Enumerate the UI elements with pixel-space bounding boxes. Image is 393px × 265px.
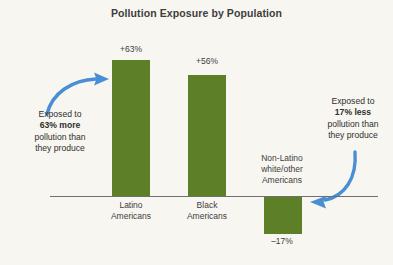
bar-black-americans (188, 75, 226, 196)
annotation-left: Exposed to 63% more pollution than they … (14, 109, 106, 155)
annotation-line: they produce (307, 130, 393, 141)
chart-container: Pollution Exposure by Population +63% +5… (0, 0, 393, 265)
bar-value-label-2: –17% (247, 236, 317, 246)
annotation-right: Exposed to 17% less pollution than they … (307, 96, 393, 142)
bar-value-label-1: +56% (172, 56, 242, 66)
annotation-line: they produce (14, 143, 106, 154)
annotation-line: pollution than (14, 132, 106, 143)
bar-non-latino-white-other-americans (264, 197, 302, 234)
bar-latino-americans (112, 60, 150, 196)
annotation-line-emphasis: 17% less (307, 107, 393, 118)
zero-baseline-axis (50, 196, 378, 197)
category-label-non-latino-white-other-americans: Non-Latino white/other Americans (237, 153, 327, 186)
category-label-line: Non-Latino (237, 153, 327, 164)
annotation-line: Exposed to (307, 96, 393, 107)
bar-value-label-0: +63% (96, 44, 166, 54)
chart-title: Pollution Exposure by Population (0, 7, 393, 19)
annotation-line: Exposed to (14, 109, 106, 120)
category-label-line: white/other (237, 164, 327, 175)
category-label-black-americans: Black Americans (162, 200, 252, 222)
category-label-line: Black (162, 200, 252, 211)
category-label-line: Americans (162, 211, 252, 222)
annotation-line-emphasis: 63% more (14, 120, 106, 131)
annotation-line: pollution than (307, 119, 393, 130)
category-label-line: Americans (237, 175, 327, 186)
arrow-left-curved (47, 73, 109, 115)
